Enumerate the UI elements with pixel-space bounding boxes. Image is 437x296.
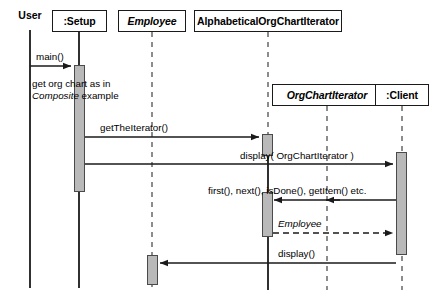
message-label-iterator-ops: first(), next(), isDone(), getItem() etc…: [208, 185, 366, 197]
participant-orgchartiterator[interactable]: OrgChartIterator: [272, 84, 382, 106]
diagram-vector-layer: [0, 0, 437, 296]
participant-client[interactable]: :Client: [375, 84, 429, 106]
message-label-display: display(): [278, 248, 315, 260]
activation-bar-client: [396, 152, 407, 255]
message-label-display-orgchartiterator: display( OrgChartIterator ): [240, 150, 354, 162]
participant-user[interactable]: User: [18, 10, 41, 21]
activation-bar-employee: [147, 255, 158, 285]
note-italic-composite: Composite: [32, 90, 79, 101]
note-composite-example: get org chart as in Composite example: [32, 78, 119, 102]
sequence-diagram-canvas: User :Setup Employee AlphabeticalOrgChar…: [0, 0, 437, 296]
participant-setup[interactable]: :Setup: [52, 10, 107, 32]
message-label-gettheiterator: getTheIterator(): [100, 122, 168, 134]
participant-alphabeticalorgchartiterator[interactable]: AlphabeticalOrgChartIterator: [194, 10, 342, 32]
note-text-after: example: [79, 90, 119, 101]
note-line-2: Composite example: [32, 90, 119, 102]
message-label-main: main(): [36, 51, 64, 63]
participant-employee[interactable]: Employee: [118, 10, 186, 32]
message-label-return-employee: Employee: [278, 218, 322, 230]
note-line-1: get org chart as in: [32, 78, 119, 90]
activation-bar-alphabetical-iterate: [262, 192, 273, 237]
